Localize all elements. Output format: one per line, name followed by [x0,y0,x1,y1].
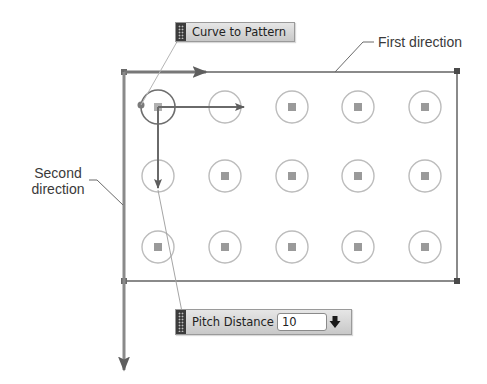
pitch-distance-toolbar[interactable]: Pitch Distance 10 [175,309,352,335]
pattern-row-2 [142,160,441,192]
curve-to-pattern-toolbar[interactable]: Curve to Pattern [175,22,295,42]
second-direction-leader [89,180,123,205]
pitch-distance-input[interactable]: 10 [277,313,327,331]
curve-to-pattern-label: Curve to Pattern [186,25,292,39]
corner-handle[interactable] [454,68,460,74]
drag-grip-icon[interactable] [176,310,186,334]
pitch-distance-dropdown-button[interactable] [328,313,342,331]
pattern-grid [141,90,441,263]
first-direction-leader [335,42,374,72]
arrow-down-icon [329,315,341,329]
pattern-row-3 [142,231,441,263]
second-direction-label: Second direction [29,165,87,197]
drag-grip-icon[interactable] [176,23,186,41]
second-direction-line1: Second [29,165,87,181]
second-direction-line2: direction [29,181,87,197]
pitch-distance-label: Pitch Distance [186,315,277,329]
corner-handle[interactable] [454,278,460,284]
first-direction-label: First direction [378,34,462,50]
